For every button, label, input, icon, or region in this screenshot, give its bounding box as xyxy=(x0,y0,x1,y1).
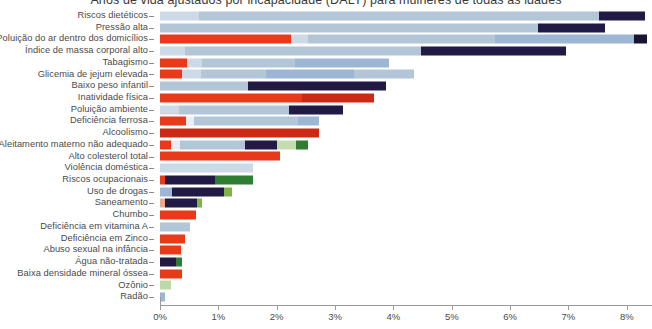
bar-segment[interactable] xyxy=(248,82,387,91)
bar-row[interactable] xyxy=(160,33,652,45)
stacked-bar[interactable] xyxy=(160,164,253,173)
stacked-bar[interactable] xyxy=(160,199,202,208)
bar-row[interactable] xyxy=(160,10,652,22)
bar-segment[interactable] xyxy=(160,234,185,243)
stacked-bar[interactable] xyxy=(160,23,605,32)
bar-row[interactable] xyxy=(160,151,652,163)
stacked-bar[interactable] xyxy=(160,152,280,161)
bar-row[interactable] xyxy=(160,45,652,57)
stacked-bar[interactable] xyxy=(160,82,386,91)
bar-segment[interactable] xyxy=(160,269,182,278)
bar-row[interactable] xyxy=(160,209,652,221)
bar-segment[interactable] xyxy=(160,47,185,56)
bar-row[interactable] xyxy=(160,139,652,151)
stacked-bar[interactable] xyxy=(160,47,566,56)
stacked-bar[interactable] xyxy=(160,269,182,278)
bar-segment[interactable] xyxy=(160,246,181,255)
bar-segment[interactable] xyxy=(599,11,646,20)
bar-segment[interactable] xyxy=(295,58,388,67)
bar-segment[interactable] xyxy=(302,93,373,102)
stacked-bar[interactable] xyxy=(160,35,647,44)
bar-segment[interactable] xyxy=(160,164,253,173)
bar-segment[interactable] xyxy=(215,175,254,184)
bar-segment[interactable] xyxy=(421,47,566,56)
bar-segment[interactable] xyxy=(197,199,202,208)
bar-segment[interactable] xyxy=(277,140,296,149)
bar-segment[interactable] xyxy=(495,35,634,44)
bar-row[interactable] xyxy=(160,244,652,256)
bar-segment[interactable] xyxy=(185,47,421,56)
bar-segment[interactable] xyxy=(296,140,308,149)
bar-segment[interactable] xyxy=(179,105,289,114)
bar-segment[interactable] xyxy=(289,105,343,114)
bar-segment[interactable] xyxy=(171,140,180,149)
stacked-bar[interactable] xyxy=(160,129,319,138)
stacked-bar[interactable] xyxy=(160,140,308,149)
stacked-bar[interactable] xyxy=(160,11,645,20)
bar-segment[interactable] xyxy=(634,35,647,44)
bar-segment[interactable] xyxy=(538,23,606,32)
bar-segment[interactable] xyxy=(308,35,496,44)
bar-row[interactable] xyxy=(160,233,652,245)
bar-row[interactable] xyxy=(160,291,652,303)
bar-segment[interactable] xyxy=(172,187,223,196)
bar-segment[interactable] xyxy=(160,117,186,126)
bar-segment[interactable] xyxy=(160,152,280,161)
bar-segment[interactable] xyxy=(160,187,172,196)
bar-segment[interactable] xyxy=(187,58,202,67)
stacked-bar[interactable] xyxy=(160,105,343,114)
bar-segment[interactable] xyxy=(224,187,232,196)
stacked-bar[interactable] xyxy=(160,187,232,196)
bar-row[interactable] xyxy=(160,104,652,116)
bar-row[interactable] xyxy=(160,115,652,127)
bar-row[interactable] xyxy=(160,174,652,186)
bar-segment[interactable] xyxy=(354,70,414,79)
bar-segment[interactable] xyxy=(202,58,295,67)
bar-segment[interactable] xyxy=(165,175,215,184)
bar-segment[interactable] xyxy=(160,222,190,231)
bar-segment[interactable] xyxy=(160,129,319,138)
bar-segment[interactable] xyxy=(291,35,307,44)
bar-row[interactable] xyxy=(160,221,652,233)
bar-row[interactable] xyxy=(160,162,652,174)
bar-segment[interactable] xyxy=(160,11,199,20)
bar-row[interactable] xyxy=(160,268,652,280)
bar-segment[interactable] xyxy=(160,257,176,266)
bar-segment[interactable] xyxy=(160,93,302,102)
bar-segment[interactable] xyxy=(201,70,265,79)
bar-segment[interactable] xyxy=(165,199,198,208)
stacked-bar[interactable] xyxy=(160,246,181,255)
bar-segment[interactable] xyxy=(182,70,202,79)
bar-row[interactable] xyxy=(160,57,652,69)
bar-segment[interactable] xyxy=(160,105,179,114)
bar-segment[interactable] xyxy=(160,70,182,79)
bar-segment[interactable] xyxy=(180,140,245,149)
stacked-bar[interactable] xyxy=(160,222,190,231)
bar-segment[interactable] xyxy=(160,281,171,290)
bar-segment[interactable] xyxy=(298,117,319,126)
bar-segment[interactable] xyxy=(186,117,194,126)
bar-row[interactable] xyxy=(160,92,652,104)
stacked-bar[interactable] xyxy=(160,93,374,102)
bar-row[interactable] xyxy=(160,198,652,210)
stacked-bar[interactable] xyxy=(160,211,196,220)
bar-row[interactable] xyxy=(160,22,652,34)
bar-segment[interactable] xyxy=(160,82,248,91)
bar-segment[interactable] xyxy=(160,35,291,44)
bar-segment[interactable] xyxy=(194,117,298,126)
bar-segment[interactable] xyxy=(245,140,277,149)
bar-segment[interactable] xyxy=(176,257,182,266)
stacked-bar[interactable] xyxy=(160,281,171,290)
stacked-bar[interactable] xyxy=(160,58,389,67)
bar-row[interactable] xyxy=(160,69,652,81)
stacked-bar[interactable] xyxy=(160,175,253,184)
bar-segment[interactable] xyxy=(160,23,538,32)
bar-segment[interactable] xyxy=(266,70,355,79)
stacked-bar[interactable] xyxy=(160,234,185,243)
bar-row[interactable] xyxy=(160,80,652,92)
bar-segment[interactable] xyxy=(160,140,171,149)
bar-segment[interactable] xyxy=(160,58,187,67)
stacked-bar[interactable] xyxy=(160,257,182,266)
bar-segment[interactable] xyxy=(160,211,196,220)
bar-row[interactable] xyxy=(160,256,652,268)
